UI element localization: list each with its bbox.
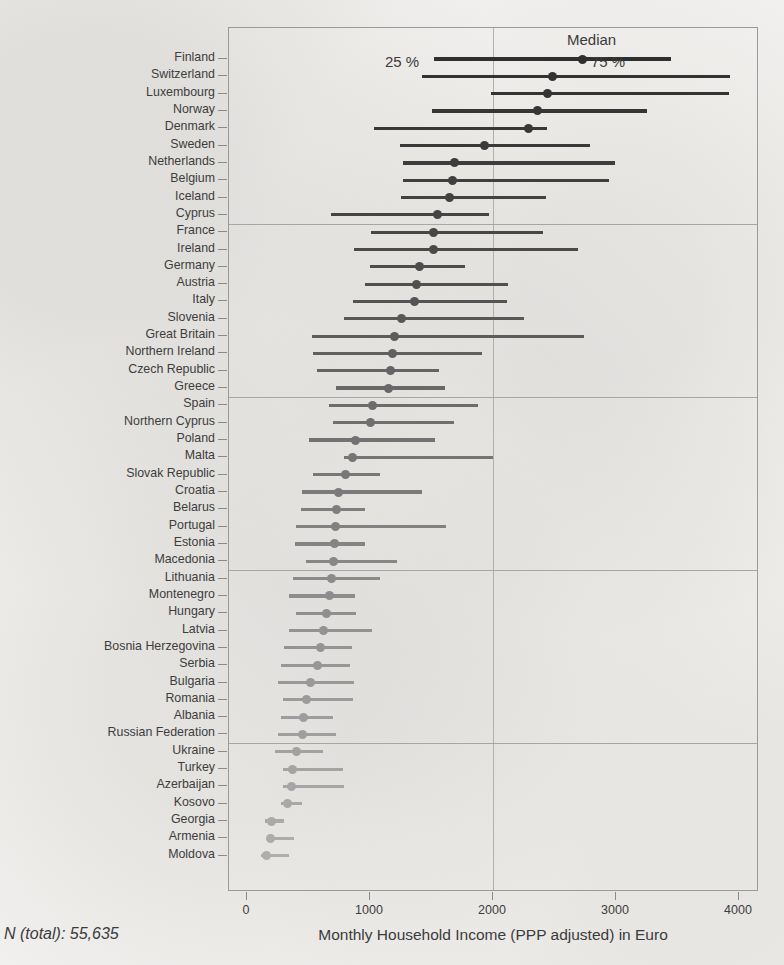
y-axis-tick [218,474,227,475]
x-axis-tick-label: 2000 [478,903,506,917]
median-dot [332,505,341,514]
data-row [229,276,757,292]
quartile-range-bar [371,231,543,234]
data-row [229,675,757,691]
median-dot [316,643,325,652]
median-dot [429,228,438,237]
y-axis-tick [218,318,227,319]
y-axis-label-bulgaria: Bulgaria [170,675,215,688]
y-axis-label-belarus: Belarus [173,501,215,514]
y-axis-tick [218,404,227,405]
y-axis-tick [218,785,227,786]
y-axis-label-norway: Norway [173,103,215,116]
y-axis-label-estonia: Estonia [174,536,215,549]
y-axis-tick [218,300,227,301]
data-row [229,86,757,102]
median-dot [266,834,275,843]
y-axis-tick [218,733,227,734]
median-dot [433,210,442,219]
y-axis-label-slovak-republic: Slovak Republic [126,467,215,480]
y-axis-tick [218,837,227,838]
y-axis-label-sweden: Sweden [170,138,215,151]
y-axis-label-cyprus: Cyprus [176,207,215,220]
plot-area [228,27,758,891]
data-row [229,120,757,136]
y-axis-label-northern-ireland: Northern Ireland [125,345,215,358]
data-row [229,553,757,569]
y-axis-label-greece: Greece [174,380,215,393]
y-axis-tick [218,699,227,700]
y-axis-label-kosovo: Kosovo [174,796,215,809]
quartile-range-bar [365,283,508,286]
quartile-range-bar [312,335,584,338]
y-axis-tick [218,855,227,856]
y-axis-tick [218,682,227,683]
y-axis-tick [218,145,227,146]
median-dot [306,678,315,687]
y-axis-tick [218,93,227,94]
median-dot [319,626,328,635]
y-axis-tick [218,422,227,423]
y-axis-label-great-britain: Great Britain [145,328,215,341]
quartile-range-bar [289,629,373,632]
quartile-range-bar [289,594,355,597]
quartile-range-bar [403,161,615,164]
data-row [229,138,757,154]
data-row [229,501,757,517]
y-axis-tick [218,456,227,457]
data-row [229,709,757,725]
y-axis-label-denmark: Denmark [165,120,215,133]
data-row [229,744,757,760]
y-axis-label-turkey: Turkey [178,761,215,774]
x-axis-tick-label: 0 [243,903,250,917]
median-dot [292,747,301,756]
data-row [229,848,757,864]
median-dot [578,55,587,64]
y-axis-tick [218,578,227,579]
data-row [229,432,757,448]
median-dot [325,591,334,600]
y-axis-tick [218,630,227,631]
y-axis-label-croatia: Croatia [175,484,215,497]
median-dot [412,280,421,289]
data-row [229,692,757,708]
quartile-range-bar [296,525,446,528]
y-axis-tick [218,266,227,267]
x-axis-tick-label: 3000 [601,903,629,917]
y-axis-tick [218,335,227,336]
data-row [229,328,757,344]
y-axis-tick [218,197,227,198]
median-dot [415,262,424,271]
y-axis-label-moldova: Moldova [168,848,215,861]
y-axis-label-portugal: Portugal [169,519,215,532]
median-dot [322,609,331,618]
y-axis-tick [218,612,227,613]
y-axis-label-czech-republic: Czech Republic [128,363,215,376]
data-row [229,51,757,67]
median-dot [533,106,542,115]
y-axis-tick [218,75,227,76]
x-axis-tick-label: 1000 [355,903,383,917]
y-axis-label-ukraine: Ukraine [172,744,215,757]
quartile-range-bar [331,213,490,216]
data-row [229,588,757,604]
median-dot [480,141,489,150]
y-axis-tick [218,716,227,717]
median-dot [397,314,406,323]
y-axis-label-ireland: Ireland [177,242,215,255]
quartile-range-bar [403,179,608,182]
y-axis-tick [218,543,227,544]
quartile-range-bar [306,560,397,563]
data-row [229,224,757,240]
x-axis-tick [492,892,493,900]
y-axis-tick [218,214,227,215]
median-dot [366,418,375,427]
y-axis-tick [218,526,227,527]
y-axis-tick [218,664,227,665]
y-axis-label-slovenia: Slovenia [167,311,215,324]
data-row [229,519,757,535]
data-row [229,190,757,206]
quartile-range-bar [353,300,507,303]
median-dot [386,366,395,375]
y-axis-label-armenia: Armenia [169,830,215,843]
